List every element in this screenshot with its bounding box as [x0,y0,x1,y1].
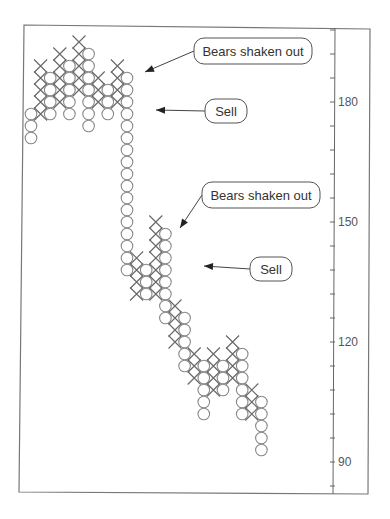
y-axis-line [333,28,335,494]
o-mark [236,348,248,360]
o-mark [121,180,133,192]
o-mark [236,360,248,372]
o-mark [121,264,133,276]
o-mark [256,396,268,408]
o-mark [64,72,76,84]
y-tick-label: 120 [338,335,358,349]
y-tick-label: 150 [338,215,358,229]
y-axis-labels: 18015012090 [338,95,358,469]
o-mark [121,216,133,228]
o-mark [44,72,56,84]
o-mark [160,252,172,264]
callout-label: Sell [260,262,282,277]
o-mark [236,408,248,420]
o-mark [121,108,133,120]
callout-bears-shaken-out: Bears shaken out [180,182,320,228]
o-mark [198,360,210,372]
point-and-figure-chart: 18015012090 Bears shaken outSellBears sh… [0,0,390,519]
o-mark [83,60,95,72]
o-mark [236,384,248,396]
callout-label: Bears shaken out [202,44,304,59]
callout-bears-shaken-out: Bears shaken out [145,38,312,72]
o-mark [256,432,268,444]
o-mark [25,108,37,120]
o-mark [83,108,95,120]
o-mark [179,324,191,336]
o-mark [179,360,191,372]
callout-label: Sell [215,104,237,119]
x-mark [34,60,47,73]
o-mark [25,120,37,132]
o-mark [121,96,133,108]
arrowhead-icon [156,107,165,114]
o-mark [121,204,133,216]
o-mark [160,276,172,288]
o-mark [121,192,133,204]
callout-label: Bears shaken out [210,188,312,203]
o-mark [121,168,133,180]
o-mark [217,360,229,372]
o-mark [102,96,114,108]
o-mark [256,408,268,420]
o-mark [121,252,133,264]
x-mark [111,60,124,73]
o-mark [64,108,76,120]
o-mark [102,84,114,96]
o-mark [160,288,172,300]
o-mark [179,312,191,324]
o-mark [83,72,95,84]
x-mark [226,336,239,349]
o-mark [140,264,152,276]
o-mark [64,60,76,72]
o-mark [198,396,210,408]
o-mark [121,228,133,240]
o-mark [121,156,133,168]
o-mark [25,132,37,144]
x-mark [73,36,86,49]
o-mark [198,384,210,396]
o-mark [198,408,210,420]
o-mark [160,240,172,252]
o-mark [121,240,133,252]
o-mark [83,84,95,96]
o-mark [64,96,76,108]
o-mark [179,348,191,360]
o-mark [140,288,152,300]
o-mark [44,108,56,120]
o-mark [160,228,172,240]
arrowhead-icon [204,263,213,270]
o-mark [198,372,210,384]
o-mark [102,108,114,120]
o-mark [256,420,268,432]
o-mark [83,48,95,60]
o-mark [256,444,268,456]
o-mark [121,144,133,156]
o-mark [160,300,172,312]
x-mark [149,216,162,229]
o-mark [121,120,133,132]
x-mark [207,348,220,361]
o-mark [217,372,229,384]
o-mark [140,276,152,288]
y-tick-label: 90 [338,455,352,469]
arrowhead-icon [180,219,188,228]
callout-sell: Sell [156,99,247,123]
o-mark [236,372,248,384]
o-mark [217,384,229,396]
o-mark [44,84,56,96]
o-mark [83,96,95,108]
arrowhead-icon [145,65,155,72]
o-mark [236,396,248,408]
callout-sell: Sell [204,257,292,281]
o-mark [160,264,172,276]
o-mark [64,84,76,96]
y-tick-label: 180 [338,95,358,109]
o-mark [179,336,191,348]
x-mark [53,48,66,61]
o-mark [121,72,133,84]
o-mark [160,312,172,324]
o-mark [121,84,133,96]
o-mark [83,120,95,132]
o-mark [44,96,56,108]
o-mark [121,132,133,144]
